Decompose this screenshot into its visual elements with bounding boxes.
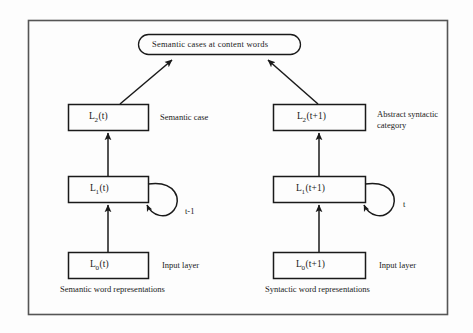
architecture-diagram: Semantic cases at content words L2(t) Se… — [0, 0, 473, 333]
caption-semantic-column: Semantic word representations — [60, 285, 165, 294]
caption-syntactic-column: Syntactic word representations — [265, 285, 370, 294]
recurrent-label-left: t-1 — [185, 207, 194, 216]
annotation-abstract-syntactic-category: Abstract syntactic category — [377, 109, 451, 130]
annotation-input-layer-left: Input layer — [162, 261, 199, 270]
layer-box-l2-left — [69, 105, 149, 131]
layer-label-l2-left: L2(t) — [89, 112, 108, 122]
output-node-label: Semantic cases at content words — [152, 40, 268, 49]
annotation-input-layer-right: Input layer — [379, 261, 416, 270]
layer-label-l1-right: L1(t+1) — [296, 184, 325, 194]
layer-label-l2-right: L2(t+1) — [297, 112, 326, 122]
l1-right-arg: (t+1) — [306, 183, 326, 193]
recurrent-loop-l1-right — [364, 183, 394, 215]
arrow-l2right-to-output — [268, 60, 318, 104]
layer-label-l0-right: L0(t+1) — [296, 260, 325, 270]
l1-right-subscript: 1 — [301, 188, 305, 196]
l1-left-arg: (t) — [100, 183, 109, 193]
l0-right-subscript: 0 — [301, 264, 305, 272]
l2-left-arg: (t) — [99, 111, 108, 121]
l0-left-subscript: 0 — [95, 264, 99, 272]
l2-left-subscript: 2 — [94, 116, 98, 124]
l1-left-subscript: 1 — [95, 188, 99, 196]
layer-label-l0-left: L0(t) — [90, 260, 109, 270]
l0-left-arg: (t) — [100, 259, 109, 269]
recurrent-loop-l1-left — [147, 183, 177, 215]
l0-right-arg: (t+1) — [306, 259, 326, 269]
l2-right-arg: (t+1) — [307, 111, 327, 121]
layer-label-l1-left: L1(t) — [90, 184, 109, 194]
arrow-l2left-to-output — [120, 60, 172, 104]
annotation-semantic-case: Semantic case — [160, 113, 208, 122]
recurrent-label-right: t — [403, 200, 405, 209]
figure-border — [29, 21, 448, 315]
l2-right-subscript: 2 — [302, 116, 306, 124]
